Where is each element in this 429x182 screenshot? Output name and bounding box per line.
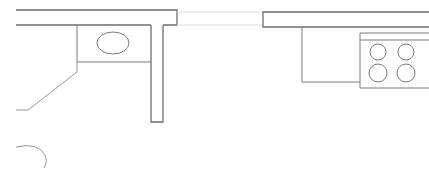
door-swing-arc (16, 146, 46, 168)
burner-icon (370, 44, 386, 60)
sink-basin-icon (97, 32, 129, 54)
cabinet (302, 27, 360, 82)
floor-plan (0, 0, 429, 182)
top-wall-left (16, 10, 177, 25)
wall-stub (151, 25, 163, 122)
stove (360, 33, 429, 88)
top-wall-right (263, 12, 429, 27)
window-opening (177, 12, 263, 25)
sink-counter (77, 25, 151, 62)
burner-icon (369, 64, 387, 82)
floor-plan-container: Kitchen floor plan (partial) (0, 0, 429, 182)
burner-icon (397, 64, 415, 82)
burner-icon (398, 44, 414, 60)
angled-counter (16, 62, 77, 110)
